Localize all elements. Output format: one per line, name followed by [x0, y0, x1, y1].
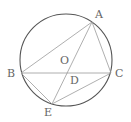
label-a: A: [94, 8, 104, 21]
segment-be: [21, 73, 52, 104]
segment-ae: [52, 22, 92, 104]
geometry-diagram: A B C D E O: [0, 0, 131, 122]
label-c: C: [115, 67, 123, 80]
label-e: E: [44, 106, 52, 119]
label-b: B: [7, 67, 15, 80]
label-d: D: [70, 74, 79, 87]
segment-ac: [92, 22, 111, 73]
label-o: O: [60, 54, 69, 67]
